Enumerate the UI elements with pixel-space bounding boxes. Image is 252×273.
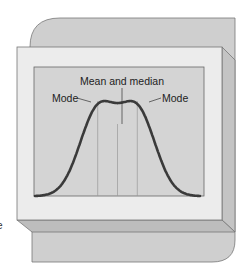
label-mode-right: Mode (162, 92, 188, 104)
side-bevel (222, 47, 235, 232)
label-mean-median: Mean and median (80, 75, 164, 87)
edge-fragment-text: e (0, 220, 3, 231)
bottom-bevel (17, 220, 235, 232)
label-mode-left: Mode (52, 92, 78, 104)
bimodal-diagram: Mean and median Mode Mode e (0, 0, 252, 273)
